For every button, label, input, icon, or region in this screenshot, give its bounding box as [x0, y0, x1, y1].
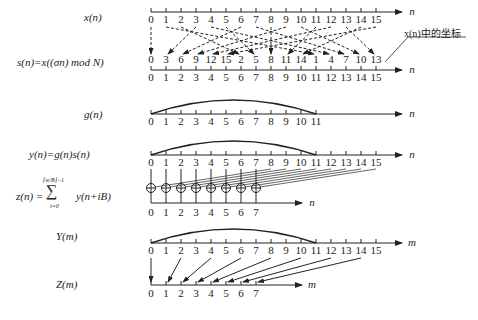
- axis-x-n-tick-label: 14: [356, 13, 368, 25]
- axis-g-n-tick-label: 1: [163, 115, 169, 127]
- axis-Z-m-tick-label: 2: [178, 287, 184, 299]
- axis-Z-m-tick-label: 6: [238, 287, 244, 299]
- permutation-arrow: [228, 27, 376, 54]
- axis-Y-m-tick-label: 0: [148, 244, 154, 256]
- axis-g-n-label: n: [409, 107, 415, 119]
- axis-z-n-tick-label: 3: [193, 206, 199, 218]
- axis-Y-m-label: m: [408, 236, 416, 248]
- axis-s-n-tick-label: 7: [253, 71, 259, 83]
- axis-Z-m-tick-label: 5: [223, 287, 229, 299]
- axis-s-n-tick-label: 15: [371, 71, 383, 83]
- axis-g-n-tick-label: 3: [193, 115, 199, 127]
- permuted-tick-label: 12: [206, 53, 217, 65]
- permuted-tick-label: 11: [281, 53, 292, 65]
- axis-Z-m-tick-label: 3: [193, 287, 199, 299]
- axis-Y-m-tick-label: 9: [283, 244, 289, 256]
- subsample-arrow: [183, 258, 211, 282]
- subsample-arrow: [228, 258, 301, 282]
- axis-Y-m-tick-label: 12: [326, 244, 337, 256]
- axis-y-n-tick-label: 6: [238, 156, 244, 168]
- permuted-tick-label: 7: [343, 53, 349, 65]
- axis-s-n-tick-label: 8: [268, 71, 274, 83]
- axis-z-n-tick-label: 1: [163, 206, 169, 218]
- axis-z-n-tick-label: 2: [178, 206, 184, 218]
- permuted-tick-label: 9: [193, 53, 199, 65]
- axis-x-n-tick-label: 12: [326, 13, 337, 25]
- window-curve-y: [151, 141, 316, 155]
- axis-y-n-tick-label: 12: [326, 156, 337, 168]
- axis-s-n-tick-label: 13: [341, 71, 353, 83]
- axis-s-n-tick-label: 11: [311, 71, 322, 83]
- subsample-arrow: [243, 258, 331, 282]
- axis-Y-m-tick-label: 3: [193, 244, 199, 256]
- axis-s-n-tick-label: 9: [283, 71, 289, 83]
- axis-x-n-tick-label: 0: [148, 13, 154, 25]
- subsample-arrow: [198, 258, 241, 282]
- axis-y-n-tick-label: 14: [356, 156, 368, 168]
- axis-x-n-tick-label: 1: [163, 13, 169, 25]
- axis-Y-m-tick-label: 5: [223, 244, 229, 256]
- axis-g-n-tick-label: 7: [253, 115, 259, 127]
- axis-Y-m-tick-label: 1: [163, 244, 169, 256]
- axis-g-n-tick-label: 9: [283, 115, 289, 127]
- axis-g-n-tick-label: 0: [148, 115, 154, 127]
- diagram-canvas: n012345678910111213141503691215258111414…: [0, 0, 478, 320]
- axis-y-n-tick-label: 2: [178, 156, 184, 168]
- axis-x-n-tick-label: 3: [193, 13, 199, 25]
- permuted-tick-label: 1: [313, 53, 319, 65]
- permutation-arrow: [346, 27, 374, 54]
- axis-x-n-tick-label: 8: [268, 13, 274, 25]
- permuted-tick-label: 2: [238, 53, 244, 65]
- axis-s-n-tick-label: 14: [356, 71, 368, 83]
- permuted-tick-label: 14: [296, 53, 308, 65]
- window-curve-Y: [151, 229, 316, 243]
- axis-Y-m-tick-label: 13: [341, 244, 353, 256]
- axis-y-n-tick-label: 5: [223, 156, 229, 168]
- axis-s-n-tick-label: 5: [223, 71, 229, 83]
- axis-y-n-tick-label: 13: [341, 156, 353, 168]
- permuted-tick-label: 5: [253, 53, 259, 65]
- alias-line: [230, 169, 346, 187]
- axis-g-n-tick-label: 6: [238, 115, 244, 127]
- axis-x-n-tick-label: 13: [341, 13, 353, 25]
- axis-Y-m-tick-label: 8: [268, 244, 274, 256]
- axis-g-n-tick-label: 10: [296, 115, 308, 127]
- axis-z-n-tick-label: 6: [238, 206, 244, 218]
- permutation-arrow: [168, 27, 196, 54]
- axis-g-n-tick-label: 5: [223, 115, 229, 127]
- axis-s-n-tick-label: 2: [178, 71, 184, 83]
- axis-Z-m-tick-label: 7: [253, 287, 259, 299]
- axis-g-n-tick-label: 11: [311, 115, 322, 127]
- axis-x-n-tick-label: 10: [296, 13, 308, 25]
- axis-Z-m-tick-label: 1: [163, 287, 169, 299]
- axis-s-n-tick-label: 6: [238, 71, 244, 83]
- permuted-tick-label: 3: [163, 53, 169, 65]
- permutation-arrow: [166, 27, 314, 54]
- axis-s-n-tick-label: 3: [193, 71, 199, 83]
- axis-y-n-tick-label: 15: [371, 156, 383, 168]
- axis-Z-m-tick-label: 0: [148, 287, 154, 299]
- axis-s-n-tick-label: 10: [296, 71, 308, 83]
- axis-x-n-tick-label: 7: [253, 13, 259, 25]
- axis-Z-m-tick-label: 4: [208, 287, 214, 299]
- axis-Y-m-tick-label: 11: [311, 244, 322, 256]
- axis-y-n-tick-label: 3: [193, 156, 199, 168]
- axis-z-n-tick-label: 4: [208, 206, 214, 218]
- axis-Y-m-tick-label: 4: [208, 244, 214, 256]
- axis-y-n-tick-label: 8: [268, 156, 274, 168]
- axis-g-n-tick-label: 2: [178, 115, 184, 127]
- axis-Y-m-tick-label: 7: [253, 244, 259, 256]
- axis-Y-m-tick-label: 10: [296, 244, 308, 256]
- axis-z-n-label: n: [309, 196, 315, 208]
- axis-x-n-tick-label: 9: [283, 13, 289, 25]
- permuted-tick-label: 8: [268, 53, 274, 65]
- axis-y-n-tick-label: 1: [163, 156, 169, 168]
- axis-Y-m-tick-label: 14: [356, 244, 368, 256]
- axis-x-n-tick-label: 5: [223, 13, 229, 25]
- axis-z-n-tick-label: 5: [223, 206, 229, 218]
- alias-line: [245, 169, 361, 187]
- subsample-arrow: [168, 258, 181, 282]
- permuted-tick-label: 15: [221, 53, 233, 65]
- axis-z-n-tick-label: 0: [148, 206, 154, 218]
- axis-x-n-tick-label: 2: [178, 13, 184, 25]
